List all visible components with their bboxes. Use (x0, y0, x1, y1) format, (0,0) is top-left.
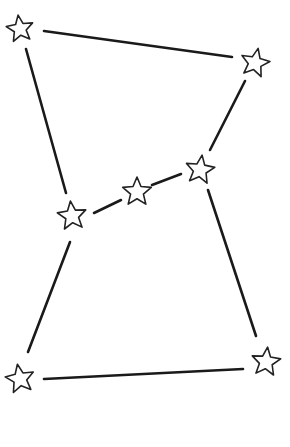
connector-line (210, 81, 245, 150)
star-icon-top-left (6, 15, 32, 41)
connector-line (94, 200, 121, 213)
star-icon-belt-left (57, 201, 85, 229)
star-icon-belt-right (187, 155, 215, 183)
connector-line (44, 369, 243, 379)
star-icon-bottom-left (5, 364, 33, 392)
star-icon-top-right (242, 48, 270, 76)
stars (5, 15, 281, 392)
connector-line (26, 49, 66, 193)
connector-line (28, 242, 70, 352)
connector-line (208, 190, 256, 336)
connector-line (44, 31, 232, 57)
connecting-lines (26, 31, 256, 379)
star-icon-belt-middle (123, 177, 152, 204)
constellation-diagram (0, 0, 290, 447)
connector-line (152, 174, 181, 185)
star-icon-bottom-right (252, 347, 280, 375)
